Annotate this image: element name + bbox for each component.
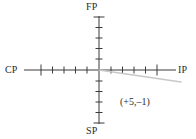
axis-label-cp: CP — [5, 65, 18, 75]
axis-label-sp: SP — [86, 126, 98, 136]
axis-label-fp: FP — [86, 2, 98, 12]
coordinate-plot — [0, 0, 196, 139]
diagram-canvas: FP SP CP IP (+5,–1) — [0, 0, 196, 139]
point-coordinate-annotation: (+5,–1) — [120, 97, 150, 107]
ray-to-point — [99, 70, 181, 82]
axis-label-ip: IP — [178, 65, 187, 75]
